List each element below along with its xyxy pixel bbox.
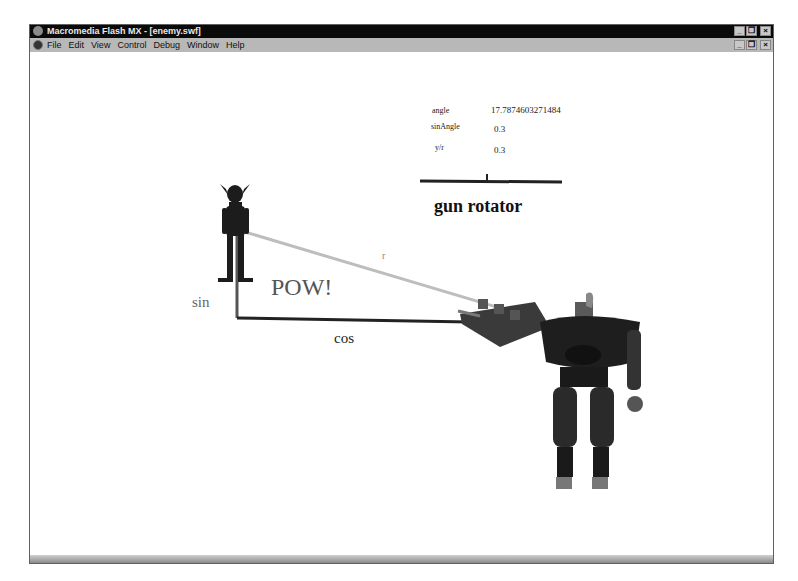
status-bar bbox=[30, 555, 773, 563]
document-icon[interactable] bbox=[33, 40, 43, 50]
window-title: Macromedia Flash MX - [enemy.swf] bbox=[47, 25, 201, 38]
gun-rotator-slider[interactable] bbox=[420, 174, 562, 182]
doc-minimize-button[interactable]: _ bbox=[734, 40, 745, 50]
menu-control[interactable]: Control bbox=[117, 38, 146, 52]
menu-help[interactable]: Help bbox=[226, 38, 245, 52]
title-bar[interactable]: Macromedia Flash MX - [enemy.swf] _ ❐ × bbox=[30, 25, 773, 38]
flash-stage[interactable]: angle 17.7874603271484 sinAngle 0.3 y/r … bbox=[30, 52, 773, 556]
menu-edit[interactable]: Edit bbox=[69, 38, 85, 52]
cos-leg bbox=[237, 318, 470, 322]
menu-window[interactable]: Window bbox=[187, 38, 219, 52]
menu-file[interactable]: File bbox=[47, 38, 62, 52]
doc-close-button[interactable]: × bbox=[760, 40, 771, 50]
menu-debug[interactable]: Debug bbox=[153, 38, 180, 52]
flash-app-icon bbox=[33, 26, 43, 36]
minimize-button[interactable]: _ bbox=[734, 26, 745, 36]
menu-bar: File Edit View Control Debug Window Help… bbox=[30, 38, 773, 52]
close-button[interactable]: × bbox=[760, 26, 771, 36]
slider-handle bbox=[486, 174, 488, 182]
flash-player-window: Macromedia Flash MX - [enemy.swf] _ ❐ × … bbox=[29, 24, 774, 564]
menu-view[interactable]: View bbox=[91, 38, 110, 52]
restore-button[interactable]: ❐ bbox=[746, 26, 757, 36]
doc-restore-button[interactable]: ❐ bbox=[746, 40, 757, 50]
robot-player-sprite bbox=[458, 293, 643, 489]
stage-artwork bbox=[30, 52, 775, 556]
